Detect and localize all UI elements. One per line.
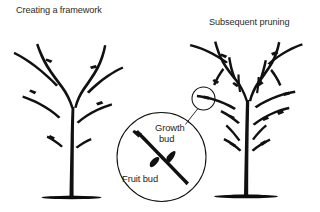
bud-detail-callout: Growth bud Fruit bud [117,113,206,202]
right-tree-trunk [244,100,249,196]
callout-leader-line [186,109,199,125]
right-panel-title: Subsequent pruning [209,17,289,27]
growth-bud-label-line1: Growth [155,122,185,133]
right-tree-spur-upper-left [213,68,224,85]
bud-mark [203,96,210,100]
left-tree-branch-mid-right [77,103,113,123]
bud-mark [29,90,36,95]
right-tree-branch-left-1 [197,95,236,110]
bud-mark [96,101,103,106]
right-tree-spur-upper-right [270,69,281,86]
left-tree-limb-fork-right [74,45,106,108]
left-tree [14,44,124,200]
bud-mark [283,92,290,96]
right-tree-branch-right-2 [253,107,290,126]
pruning-illustration: Creating a framework Subsequent prunin [0,0,320,212]
right-tree-branch-right-3 [252,139,271,152]
left-tree-branch-lower-right [76,138,92,149]
left-tree-trunk [70,107,75,197]
left-panel-title: Creating a framework [16,5,102,15]
left-tree-branch-upper-left [14,52,59,87]
right-tree-limb-right [249,42,281,102]
fruit-bud-label: Fruit bud [122,173,158,184]
left-tree-branch-upper-right [87,66,124,93]
left-tree-limb-fork-left [36,44,74,109]
right-tree-twig-right [252,125,267,141]
right-tree-twig-small [237,75,241,93]
right-tree-twig-left [226,125,241,142]
left-tree-branch-mid-left [22,96,60,119]
right-tree [190,41,303,198]
growth-bud-label-line2: bud [159,133,174,144]
